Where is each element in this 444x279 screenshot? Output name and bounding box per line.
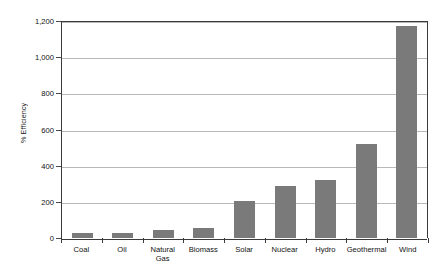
x-axis-tick-mark — [306, 238, 307, 243]
y-axis-tick-label: 1,200 — [35, 17, 54, 26]
y-axis-tick-label: 400 — [41, 161, 54, 170]
y-axis-tick-labels: 02004006008001,0001,200 — [28, 21, 54, 238]
bar-slot — [305, 22, 346, 238]
bar — [315, 180, 336, 238]
x-axis-tick-mark — [387, 238, 388, 243]
x-axis-tick-mark — [61, 238, 62, 243]
bar-slot — [224, 22, 265, 238]
x-axis-category-labels: CoalOilNatural GasBiomassSolarNuclearHyd… — [61, 245, 428, 275]
y-axis-tick-label: 0 — [50, 234, 54, 243]
x-axis-tick-mark — [265, 238, 266, 243]
bar — [234, 201, 255, 238]
bar — [193, 228, 214, 238]
y-axis-tick-label: 600 — [41, 125, 54, 134]
bar-slot — [143, 22, 184, 238]
x-axis-category-label: Hydro — [305, 245, 346, 275]
x-axis-category-label: Geothermal — [346, 245, 388, 275]
bar-slot — [387, 22, 428, 238]
x-axis-tick-marks — [61, 238, 428, 243]
y-axis-tick-label: 200 — [41, 197, 54, 206]
x-axis-tick-mark — [102, 238, 103, 243]
bar-chart: % Efficiency 02004006008001,0001,200 Coa… — [0, 0, 444, 279]
bars-layer — [62, 22, 427, 238]
bar-slot — [184, 22, 225, 238]
x-axis-category-label: Coal — [61, 245, 102, 275]
plot-area — [61, 21, 428, 238]
bar-slot — [265, 22, 306, 238]
bar-slot — [103, 22, 144, 238]
x-axis-tick-mark — [143, 238, 144, 243]
bar — [153, 230, 174, 238]
bar — [396, 26, 417, 238]
bar — [356, 144, 377, 238]
x-axis-category-label: Solar — [224, 245, 265, 275]
y-axis-tick-label: 1,000 — [35, 53, 54, 62]
x-axis-tick-mark — [428, 238, 429, 243]
x-axis-category-label: Biomass — [183, 245, 224, 275]
bar-slot — [346, 22, 387, 238]
x-axis-category-label: Oil — [102, 245, 143, 275]
x-axis-category-label: Wind — [387, 245, 428, 275]
x-axis-category-label: Nuclear — [264, 245, 305, 275]
x-axis-tick-mark — [224, 238, 225, 243]
bar-slot — [62, 22, 103, 238]
y-axis-tick-label: 800 — [41, 89, 54, 98]
x-axis-tick-mark — [183, 238, 184, 243]
x-axis-category-label: Natural Gas — [142, 245, 183, 275]
bar — [275, 186, 296, 238]
x-axis-tick-mark — [346, 238, 347, 243]
